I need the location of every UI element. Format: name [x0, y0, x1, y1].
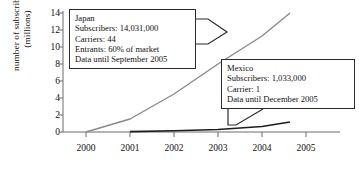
- japan-callout-line-3: Carriers: 44: [75, 34, 191, 44]
- series-line-mexico: [130, 122, 290, 132]
- mexico-callout-line-3: Carrier: 1: [227, 84, 350, 94]
- mexico-callout-line-2: Subscribers: 1,033,000: [227, 73, 350, 83]
- japan-callout-line-5: Data until September 2005: [75, 54, 191, 64]
- japan-callout-line-2: Subscribers: 14,031,000: [75, 23, 191, 33]
- mexico-callout-pointer: [228, 109, 263, 125]
- mexico-callout-box: Mexico Subscribers: 1,033,000 Carrier: 1…: [221, 59, 355, 109]
- japan-callout-pointer: [196, 19, 227, 44]
- mexico-callout-line-4: Data until December 2005: [227, 94, 350, 104]
- chart-figure: number of subscribers (millions) 14 12 1…: [0, 0, 359, 171]
- japan-callout-line-1: Japan: [75, 13, 191, 23]
- mexico-callout-line-1: Mexico: [227, 63, 350, 73]
- y-axis-ticks: [59, 13, 63, 132]
- japan-callout-line-4: Entrants: 60% of market: [75, 44, 191, 54]
- japan-callout-box: Japan Subscribers: 14,031,000 Carriers: …: [69, 9, 196, 69]
- x-axis-ticks: [86, 132, 306, 137]
